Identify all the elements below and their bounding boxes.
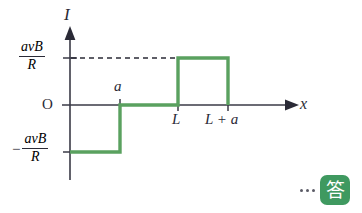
y-axis	[65, 26, 76, 180]
y-tick-label-positive: avB R	[19, 40, 45, 73]
x-tick-label-L: L	[172, 112, 180, 127]
fraction-denominator: R	[19, 57, 45, 73]
x-axis-label: x	[300, 96, 307, 112]
ellipsis-icon	[300, 189, 315, 192]
x-tick-label-L-plus-a: L + a	[205, 112, 238, 127]
answer-badge-group[interactable]: 答	[300, 172, 362, 208]
y-tick-label-negative: − avB R	[12, 132, 48, 165]
fraction-numerator: avB	[22, 132, 48, 149]
x-tick-label-a: a	[114, 79, 122, 94]
x-axis	[62, 100, 299, 111]
origin-label: O	[42, 97, 53, 112]
fraction-numerator: avB	[19, 40, 45, 57]
y-axis-label: I	[64, 6, 70, 23]
figure-canvas: I x O a L L + a avB R − avB R 答	[0, 0, 362, 213]
answer-badge-icon[interactable]: 答	[320, 175, 350, 205]
minus-sign: −	[12, 141, 22, 158]
fraction-denominator: R	[22, 149, 48, 165]
